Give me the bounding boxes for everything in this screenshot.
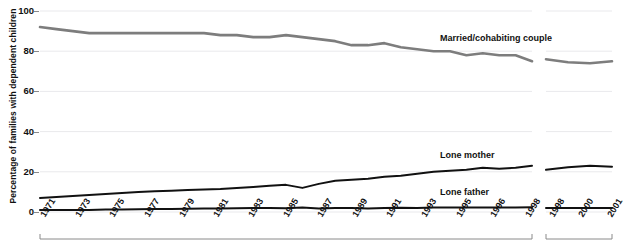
series-line (546, 166, 612, 170)
series-annotation: Married/cohabiting couple (440, 33, 552, 43)
y-tick-mark (34, 51, 39, 52)
axis-bracket (40, 234, 532, 239)
series-line (546, 59, 612, 63)
y-tick-label: 60 (6, 87, 34, 97)
y-tick-mark (34, 91, 39, 92)
y-tick-mark (34, 132, 39, 133)
series-annotation: Lone father (440, 187, 489, 197)
series-annotation: Lone mother (440, 150, 495, 160)
y-tick-mark (34, 172, 39, 173)
y-tick-label: 20 (6, 167, 34, 177)
y-tick-label: 80 (6, 46, 34, 56)
axis-bracket (546, 234, 612, 239)
y-tick-mark (34, 11, 39, 12)
y-tick-label: 40 (6, 127, 34, 137)
y-tick-label: 100 (6, 6, 34, 16)
y-tick-label: 0 (6, 207, 34, 217)
